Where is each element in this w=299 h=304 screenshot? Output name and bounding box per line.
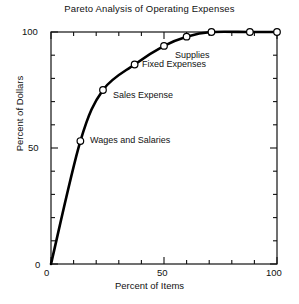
- axis-ticks: [51, 32, 277, 264]
- data-point-marker: [274, 29, 281, 36]
- data-point-markers: [77, 29, 280, 145]
- data-point-marker: [247, 29, 254, 36]
- axes-frame: [51, 32, 277, 264]
- data-series: [51, 32, 277, 264]
- data-point-marker: [161, 43, 168, 50]
- data-point-marker: [183, 33, 190, 40]
- pareto-chart: Pareto Analysis of Operating Expenses Pe…: [0, 0, 299, 304]
- data-point-marker: [131, 61, 138, 68]
- pareto-curve: [51, 32, 277, 264]
- data-point-marker: [100, 87, 107, 94]
- data-point-marker: [77, 138, 84, 145]
- data-point-marker: [208, 29, 215, 36]
- chart-canvas: [0, 0, 299, 304]
